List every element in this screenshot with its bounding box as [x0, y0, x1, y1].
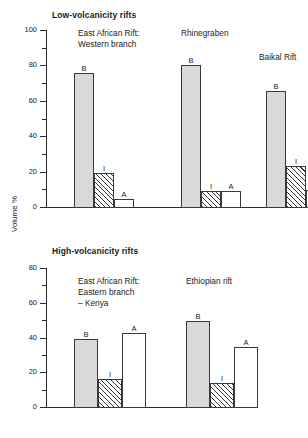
bar-label: I [295, 157, 297, 166]
bar-a: A [122, 333, 146, 408]
bar-i: I [94, 173, 114, 208]
y-tick-label: 60 [29, 298, 37, 307]
bar-label: I [109, 370, 111, 379]
y-tick-label: 0 [33, 202, 37, 211]
bar-i: I [210, 383, 234, 408]
bar-label: B [195, 312, 200, 321]
y-tick-label: 40 [29, 333, 37, 342]
y-tick-label: 20 [29, 167, 37, 176]
bar-label: I [221, 374, 223, 383]
bar-label: A [121, 190, 126, 199]
group-label: East African Rift: Eastern branch – Keny… [78, 276, 139, 309]
y-tick-label: 100 [24, 25, 37, 34]
bar-label: I [103, 164, 105, 173]
bar-label: A [243, 338, 248, 347]
group-label: Ethiopian rift [186, 276, 232, 287]
y-tick-label: 40 [29, 131, 37, 140]
y-tick-label: 0 [33, 402, 37, 411]
bar-b: B [74, 73, 94, 208]
bars-layer-high: East African Rift: Eastern branch – Keny… [46, 268, 304, 408]
bar-a: A [306, 190, 308, 208]
bar-i: I [98, 379, 122, 408]
group-label: Baikal Rift [259, 52, 296, 63]
bar-a: A [114, 199, 134, 208]
plot-area-high: 020406080 East African Rift: Eastern bra… [46, 268, 304, 408]
panel-low-title: Low-volcanicity rifts [52, 10, 136, 20]
bar-i: I [201, 191, 221, 208]
panel-low-volcanicity: Low-volcanicity rifts 020406080100 East … [0, 0, 308, 232]
bar-i: I [286, 166, 306, 208]
y-tick-label: 80 [29, 263, 37, 272]
bar-b: B [74, 339, 98, 409]
group-label: Rhinegraben [181, 28, 229, 39]
y-tick-label: 80 [29, 60, 37, 69]
bar-label: B [81, 64, 86, 73]
bar-label: A [131, 324, 136, 333]
bar-a: A [234, 347, 258, 408]
bar-b: B [266, 91, 286, 208]
bars-layer-low: East African Rift: Western branchBIARhin… [46, 30, 304, 208]
bar-label: A [228, 182, 233, 191]
y-tick-label: 60 [29, 96, 37, 105]
group-label: East African Rift: Western branch [78, 28, 139, 50]
bar-label: B [273, 82, 278, 91]
bar-label: I [210, 182, 212, 191]
bar-b: B [181, 65, 201, 208]
panel-high-title: High-volcanicity rifts [52, 246, 138, 256]
bar-a: A [221, 191, 241, 208]
bar-b: B [186, 321, 210, 408]
y-tick-label: 20 [29, 367, 37, 376]
bar-label: B [188, 56, 193, 65]
panel-high-volcanicity: High-volcanicity rifts 020406080 East Af… [0, 238, 308, 438]
plot-area-low: 020406080100 East African Rift: Western … [46, 30, 304, 208]
bar-label: B [83, 330, 88, 339]
